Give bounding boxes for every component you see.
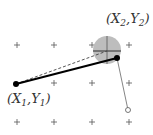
- grid-plus-mark: [126, 119, 132, 125]
- grid-plus-mark: [126, 42, 132, 48]
- start-point-label: (X1,Y1): [7, 92, 51, 108]
- dashed-guide-line: [16, 51, 107, 84]
- start-point-dot: [13, 81, 19, 87]
- label-text: ): [145, 11, 150, 26]
- grid-plus-mark: [89, 80, 95, 86]
- main-segment-line: [16, 58, 117, 84]
- end-point-label: (X2,Y2): [106, 12, 150, 28]
- grid-plus-mark: [14, 42, 20, 48]
- grid-plus-mark: [51, 119, 57, 125]
- grid-plus-mark: [14, 119, 20, 125]
- label-text: ,Y: [126, 11, 139, 26]
- grid-plus-mark: [51, 80, 57, 86]
- grid-plus-mark: [51, 42, 57, 48]
- label-text: (X: [7, 91, 21, 106]
- end-point-dot: [114, 55, 120, 61]
- label-text: ): [46, 91, 51, 106]
- grid-plus-mark: [89, 119, 95, 125]
- diagram-canvas: (X2,Y2) (X1,Y1): [0, 0, 153, 135]
- hanging-point-hollow: [126, 108, 131, 113]
- hanging-line: [117, 58, 128, 110]
- grid-plus-mark: [126, 80, 132, 86]
- label-text: ,Y: [27, 91, 40, 106]
- label-text: (X: [106, 11, 120, 26]
